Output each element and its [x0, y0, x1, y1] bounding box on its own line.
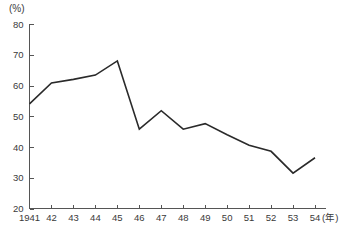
x-axis-unit-label: (年)	[322, 212, 338, 223]
x-tick-label: 53	[288, 212, 299, 223]
x-tick-label: 50	[222, 212, 233, 223]
x-tick-label: 51	[244, 212, 255, 223]
line-chart: (%) 80706050403020 194142434445464748495…	[0, 0, 342, 235]
x-tick-group: 194142434445464748495051525354	[19, 205, 320, 224]
chart-plot-area: 80706050403020 1941424344454647484950515…	[0, 0, 342, 235]
x-tick-label: 49	[200, 212, 211, 223]
y-tick-label: 60	[13, 80, 24, 91]
y-tick-label: 40	[13, 142, 24, 153]
x-tick-label: 42	[46, 212, 57, 223]
y-tick-label: 70	[13, 49, 24, 60]
y-tick-label: 30	[13, 172, 24, 183]
x-tick-label: 48	[178, 212, 189, 223]
page-footer-artifact	[4, 228, 204, 235]
x-tick-label: 47	[156, 212, 167, 223]
x-tick-label: 43	[68, 212, 79, 223]
data-series-line	[30, 61, 316, 173]
x-tick-label: 52	[266, 212, 277, 223]
y-tick-group: 80706050403020	[13, 19, 34, 215]
x-tick-label: 54	[310, 212, 321, 223]
x-tick-label: 44	[90, 212, 101, 223]
y-axis-group: 80706050403020	[13, 19, 34, 215]
x-tick-label: 46	[134, 212, 145, 223]
x-tick-label: 45	[112, 212, 123, 223]
y-tick-label: 80	[13, 19, 24, 30]
y-tick-label: 50	[13, 111, 24, 122]
x-tick-label: 1941	[19, 212, 40, 223]
x-axis-group: 194142434445464748495051525354 (年)	[19, 205, 338, 224]
